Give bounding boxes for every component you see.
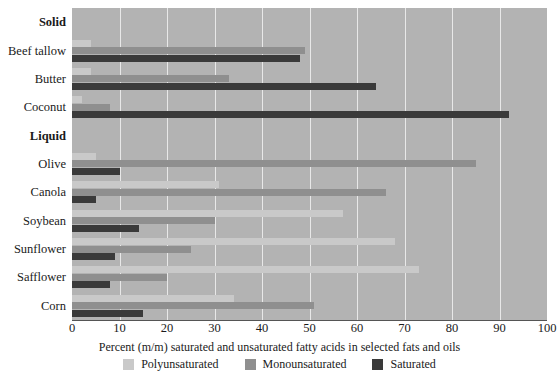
bar-canola-sat bbox=[72, 196, 96, 203]
bar-olive-poly bbox=[72, 153, 96, 160]
tick-label-40: 40 bbox=[256, 322, 269, 335]
bar-canola-mono bbox=[72, 189, 386, 196]
legend-label: Monounsaturated bbox=[263, 358, 347, 370]
legend-swatch-icon bbox=[123, 359, 134, 370]
bar-sunflower-sat bbox=[72, 253, 115, 260]
bar-safflower-poly bbox=[72, 266, 419, 273]
bar-butter-mono bbox=[72, 75, 229, 82]
plot-area bbox=[72, 8, 547, 320]
category-label-soybean: Soybean bbox=[23, 215, 66, 228]
category-label-corn: Corn bbox=[41, 300, 66, 313]
bar-coconut-mono bbox=[72, 104, 110, 111]
category-label-beef-tallow: Beef tallow bbox=[8, 45, 66, 58]
legend-swatch-icon bbox=[372, 359, 383, 370]
bar-group bbox=[72, 150, 547, 178]
bar-beef-tallow-sat bbox=[72, 55, 300, 62]
legend-label: Saturated bbox=[390, 358, 435, 370]
bar-group bbox=[72, 178, 547, 206]
bar-group bbox=[72, 292, 547, 320]
tick-label-90: 90 bbox=[493, 322, 506, 335]
bar-soybean-sat bbox=[72, 225, 139, 232]
legend-item-monounsaturated[interactable]: Monounsaturated bbox=[245, 358, 347, 370]
fatty-acid-composition-chart: SolidLiquidBeef tallowButterCoconutOlive… bbox=[0, 0, 559, 377]
bar-olive-sat bbox=[72, 168, 120, 175]
bar-sunflower-poly bbox=[72, 238, 395, 245]
group-header-solid: Solid bbox=[39, 16, 66, 29]
bar-coconut-poly bbox=[72, 96, 82, 103]
category-label-coconut: Coconut bbox=[24, 101, 66, 114]
tick-label-30: 30 bbox=[208, 322, 221, 335]
bar-group bbox=[72, 263, 547, 291]
bar-group bbox=[72, 235, 547, 263]
bar-coconut-sat bbox=[72, 111, 509, 118]
bar-canola-poly bbox=[72, 181, 219, 188]
bar-corn-poly bbox=[72, 295, 234, 302]
tick-label-0: 0 bbox=[69, 322, 75, 335]
group-header-liquid: Liquid bbox=[30, 130, 66, 143]
bar-olive-mono bbox=[72, 160, 476, 167]
tick-label-70: 70 bbox=[398, 322, 411, 335]
category-label-sunflower: Sunflower bbox=[14, 243, 66, 256]
bar-group bbox=[72, 36, 547, 64]
category-label-safflower: Safflower bbox=[17, 271, 66, 284]
bar-group bbox=[72, 207, 547, 235]
bar-soybean-mono bbox=[72, 217, 215, 224]
legend-swatch-icon bbox=[245, 359, 256, 370]
bar-group bbox=[72, 65, 547, 93]
legend-item-polyunsaturated[interactable]: Polyunsaturated bbox=[123, 358, 218, 370]
bar-corn-sat bbox=[72, 310, 143, 317]
legend-label: Polyunsaturated bbox=[141, 358, 218, 370]
bar-butter-sat bbox=[72, 83, 376, 90]
category-label-column: SolidLiquidBeef tallowButterCoconutOlive… bbox=[0, 8, 70, 320]
tick-label-20: 20 bbox=[161, 322, 174, 335]
category-label-butter: Butter bbox=[35, 73, 66, 86]
category-label-olive: Olive bbox=[38, 158, 66, 171]
x-axis-title: Percent (m/m) saturated and unsaturated … bbox=[0, 340, 559, 355]
bar-safflower-mono bbox=[72, 274, 167, 281]
tick-label-60: 60 bbox=[351, 322, 364, 335]
bar-sunflower-mono bbox=[72, 246, 191, 253]
chart-legend: PolyunsaturatedMonounsaturatedSaturated bbox=[0, 358, 559, 370]
bar-corn-mono bbox=[72, 302, 314, 309]
tick-label-10: 10 bbox=[113, 322, 126, 335]
legend-item-saturated[interactable]: Saturated bbox=[372, 358, 435, 370]
bar-soybean-poly bbox=[72, 210, 343, 217]
tick-label-100: 100 bbox=[538, 322, 557, 335]
tick-label-50: 50 bbox=[303, 322, 316, 335]
bar-group bbox=[72, 93, 547, 121]
bar-safflower-sat bbox=[72, 281, 110, 288]
bar-beef-tallow-poly bbox=[72, 40, 91, 47]
bar-beef-tallow-mono bbox=[72, 47, 305, 54]
category-label-canola: Canola bbox=[31, 186, 66, 199]
tick-label-80: 80 bbox=[446, 322, 459, 335]
bar-butter-poly bbox=[72, 68, 91, 75]
